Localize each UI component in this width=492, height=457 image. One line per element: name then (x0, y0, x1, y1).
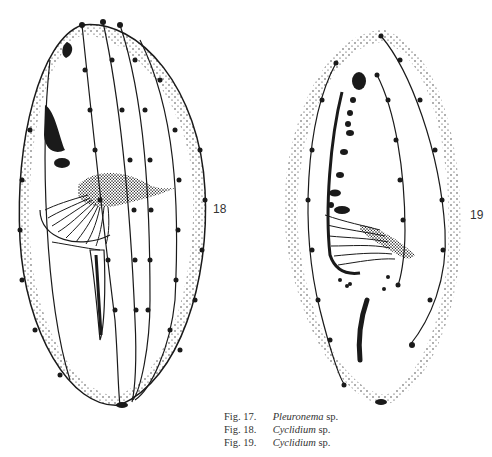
figure-caption: Fig. 17. Pleuronema sp. Fig. 18. Cyclidi… (224, 410, 338, 449)
caption-fig-number: Fig. 17. (224, 410, 270, 423)
figure-plate: 18 19 (0, 0, 492, 410)
caption-species: sp. (326, 411, 338, 422)
caption-fig-number: Fig. 18. (224, 423, 270, 436)
caption-genus: Pleuronema (273, 411, 327, 422)
caption-species: sp. (318, 437, 330, 448)
figure-18-label: 18 (213, 202, 226, 216)
figure-18-drawing (18, 19, 208, 408)
figure-19-label: 19 (470, 208, 483, 222)
specimen-drawings (0, 0, 492, 410)
caption-species: sp. (318, 424, 330, 435)
caption-genus: Cyclidium (273, 437, 319, 448)
caption-genus: Cyclidium (273, 424, 319, 435)
caption-fig-number: Fig. 19. (224, 436, 270, 449)
caption-fig-17: Fig. 17. Pleuronema sp. (224, 410, 338, 423)
caption-fig-18: Fig. 18. Cyclidium sp. (224, 423, 338, 436)
caption-fig-19: Fig. 19. Cyclidium sp. (224, 436, 338, 449)
figure-19-drawing (284, 30, 460, 405)
